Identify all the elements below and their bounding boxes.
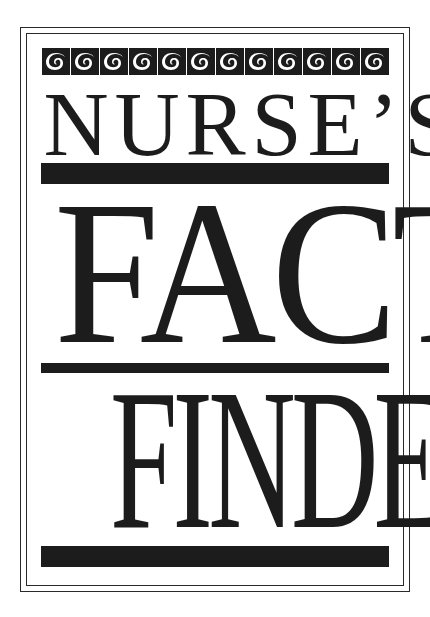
wave-scroll-icon <box>331 48 360 75</box>
wave-scroll-icon <box>360 48 389 75</box>
wave-scroll-icon <box>273 48 302 75</box>
wave-scroll-icon <box>244 48 273 75</box>
wave-scroll-icon <box>186 48 215 75</box>
wave-scroll-icon <box>215 48 244 75</box>
title-fact: FACT <box>54 170 376 376</box>
thick-rule-bottom <box>41 546 389 567</box>
wave-scroll-icon <box>70 48 99 75</box>
wave-scroll-icon <box>128 48 157 75</box>
ornamental-wave-band <box>42 48 389 75</box>
wave-scroll-icon <box>157 48 186 75</box>
wave-scroll-icon <box>42 48 70 75</box>
wave-scroll-icon <box>302 48 331 75</box>
wave-scroll-icon <box>99 48 128 75</box>
title-nurses: NURSE’S <box>44 78 387 170</box>
title-finder: FINDER <box>110 358 320 560</box>
